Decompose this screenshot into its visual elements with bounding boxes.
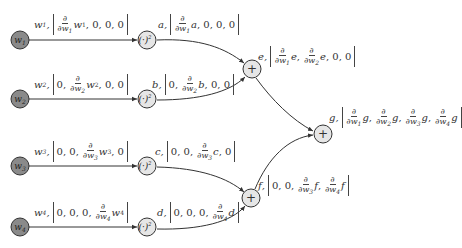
label-d: d, 0, 0, 0, ∂∂w4d (157, 202, 239, 223)
square-node-c: (·)2 (138, 157, 156, 175)
svg-text:+: + (246, 191, 256, 205)
label-e: e, ∂∂w1e, ∂∂w2e, 0, 0 (258, 46, 355, 67)
input-node-w3: w3 (11, 157, 29, 175)
label-w3: w3, 0, 0, ∂∂w3w3, 0 (34, 141, 128, 162)
square-node-a: (·)2 (138, 31, 156, 49)
edge-c-f (157, 167, 244, 192)
edge-a-e (157, 40, 244, 63)
svg-text:+: + (318, 127, 328, 141)
input-node-w1: w1 (11, 31, 29, 49)
edge-e-g (256, 78, 313, 131)
input-node-w2: w2 (11, 90, 29, 108)
svg-text:+: + (247, 62, 257, 76)
square-node-d: (·)2 (138, 218, 156, 236)
label-a: a, ∂∂w1a, 0, 0, 0 (158, 14, 239, 35)
label-f: f, 0, 0, ∂∂w3f, ∂∂w4f (258, 175, 349, 196)
label-w4: w4, 0, 0, 0, ∂∂w4w4 (34, 202, 128, 223)
label-c: c, 0, 0, ∂∂w3c, 0 (155, 141, 235, 162)
label-b: b, 0, ∂∂w2b, 0, 0 (152, 74, 234, 95)
input-node-w4: w4 (11, 218, 29, 236)
edges (29, 40, 313, 229)
label-g: g, ∂∂w1g, ∂∂w2g, ∂∂w3g, ∂∂w4g (329, 107, 462, 128)
label-w1: w1, ∂∂w1w1, 0, 0, 0 (34, 14, 128, 35)
label-w2: w2, 0, ∂∂w2w2, 0, 0 (34, 74, 128, 95)
